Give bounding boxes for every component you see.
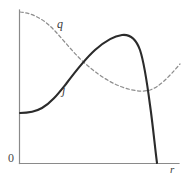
curve-label-j: j: [62, 84, 65, 96]
curve-label-q: q: [57, 18, 63, 30]
origin-label: 0: [8, 152, 14, 164]
curve-j-solid: [20, 35, 157, 163]
plot-canvas: [0, 0, 187, 182]
curve-q-dashed: [20, 12, 180, 91]
figure-container: q j r 0: [0, 0, 187, 182]
x-axis-label: r: [170, 164, 174, 175]
